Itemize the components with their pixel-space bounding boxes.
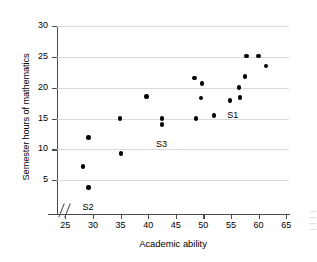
- scatter-plot-figure: Semester hours of mathematics Academic a…: [0, 0, 317, 262]
- data-point: [228, 98, 232, 102]
- y-tick-mark: [52, 180, 57, 181]
- x-tick-label: 40: [136, 220, 160, 230]
- gridline: [57, 57, 289, 58]
- data-point: [118, 116, 122, 120]
- x-tick-label: 65: [274, 220, 298, 230]
- y-tick-mark: [52, 57, 57, 58]
- plot-area: [57, 26, 289, 211]
- y-tick-label: 20: [22, 82, 48, 92]
- data-point: [86, 185, 90, 189]
- x-tick-label: 25: [53, 220, 77, 230]
- data-point: [212, 113, 216, 117]
- x-tick-mark: [93, 215, 94, 219]
- page-edge-artifact: [307, 206, 317, 252]
- x-tick-label: 50: [191, 220, 215, 230]
- data-point: [86, 135, 90, 139]
- y-tick-label: 5: [22, 174, 48, 184]
- point-annotation-s3: S3: [156, 139, 167, 149]
- x-tick-mark: [259, 215, 260, 219]
- x-tick-mark: [121, 215, 122, 219]
- x-tick-mark: [286, 215, 287, 219]
- data-point: [244, 54, 248, 58]
- data-point: [200, 81, 204, 85]
- x-tick-mark: [148, 215, 149, 219]
- gridline: [57, 88, 289, 89]
- data-point: [160, 122, 164, 126]
- gridline: [57, 149, 289, 150]
- y-tick-label: 10: [22, 143, 48, 153]
- y-tick-mark: [52, 119, 57, 120]
- x-tick-label: 35: [109, 220, 133, 230]
- y-tick-label: 25: [22, 51, 48, 61]
- point-annotation-s2: S2: [82, 202, 93, 212]
- x-tick-mark: [203, 215, 204, 219]
- data-point: [119, 151, 123, 155]
- y-tick-label: 30: [22, 20, 48, 30]
- x-tick-label: 30: [81, 220, 105, 230]
- x-tick-label: 55: [219, 220, 243, 230]
- gridline: [57, 26, 289, 27]
- y-tick-mark: [52, 88, 57, 89]
- y-tick-mark: [52, 26, 57, 27]
- point-annotation-s1: S1: [227, 110, 238, 120]
- y-tick-label: 15: [22, 113, 48, 123]
- x-tick-label: 60: [247, 220, 271, 230]
- data-point: [238, 95, 242, 99]
- x-axis-title: Academic ability: [56, 238, 290, 249]
- data-point: [160, 116, 164, 120]
- gridline: [57, 180, 289, 181]
- gridline: [57, 119, 289, 120]
- x-tick-label: 45: [164, 220, 188, 230]
- data-point: [81, 164, 85, 168]
- data-point: [144, 94, 148, 98]
- x-tick-mark: [176, 215, 177, 219]
- data-point: [192, 76, 196, 80]
- x-axis-line: [48, 214, 290, 215]
- x-tick-mark: [231, 215, 232, 219]
- y-tick-mark: [52, 149, 57, 150]
- x-tick-mark: [65, 215, 66, 219]
- data-point: [243, 74, 247, 78]
- data-point: [237, 85, 241, 89]
